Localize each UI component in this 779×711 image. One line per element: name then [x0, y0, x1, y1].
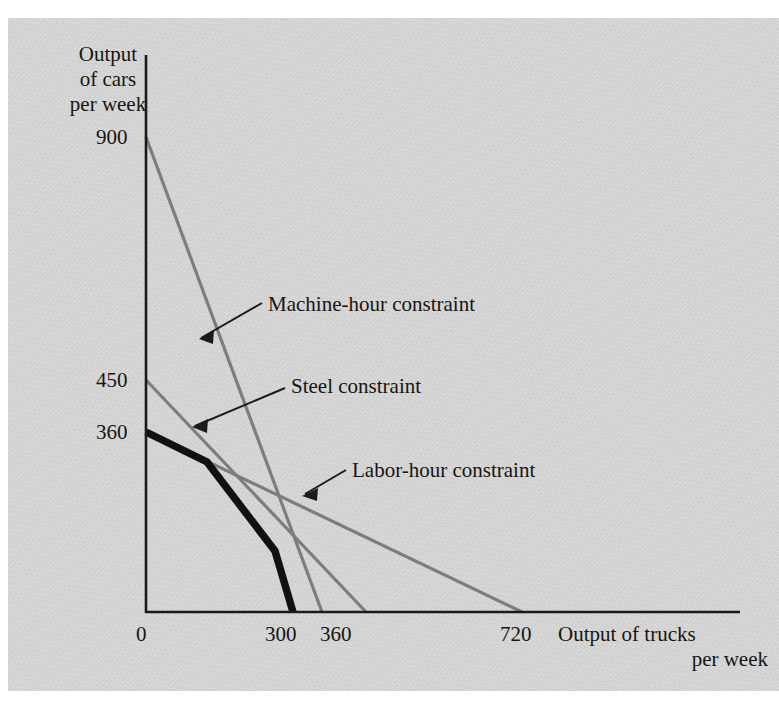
- steel-annotation-arrow: [192, 388, 285, 433]
- steel-constraint-label: Steel constraint: [291, 374, 421, 399]
- y-tick-label-900: 900: [96, 125, 128, 150]
- x-axis-title-line-2: per week: [558, 647, 768, 672]
- x-axis-title: Output of trucks per week: [558, 622, 768, 672]
- y-axis-title-line-3: per week: [62, 92, 154, 117]
- y-tick-label-360: 360: [96, 420, 128, 445]
- y-axis-title-line-1: Output: [62, 42, 154, 67]
- x-tick-label-300: 300: [265, 622, 297, 647]
- machine-hour-constraint-label: Machine-hour constraint: [268, 292, 475, 317]
- x-axis-title-line-1: Output of trucks: [558, 622, 768, 647]
- x-tick-label-720: 720: [500, 622, 532, 647]
- steel-constraint-line: [146, 380, 366, 612]
- y-axis-title: Output of cars per week: [62, 42, 154, 117]
- y-tick-label-450: 450: [96, 368, 128, 393]
- figure-page: Output of cars per week Output of trucks…: [0, 0, 779, 711]
- x-tick-label-0: 0: [136, 622, 147, 647]
- labor-hour-annotation-arrow: [302, 470, 346, 501]
- y-axis-title-line-2: of cars: [62, 67, 154, 92]
- x-tick-label-360: 360: [320, 622, 352, 647]
- labor-hour-constraint-label: Labor-hour constraint: [352, 458, 535, 483]
